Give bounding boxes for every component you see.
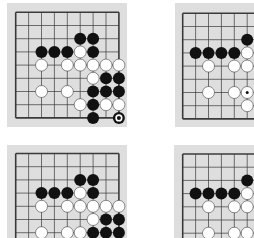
white-stone (203, 201, 215, 213)
black-stone (215, 188, 227, 200)
black-stone (87, 99, 99, 111)
white-stone (100, 200, 112, 212)
white-stone (61, 59, 73, 71)
black-stone (87, 174, 99, 186)
white-stone (228, 60, 240, 72)
black-stone (190, 47, 202, 59)
black-stone (87, 227, 99, 238)
board-grid (175, 3, 254, 127)
white-stone (241, 227, 253, 238)
go-board-bottom-right (174, 145, 254, 238)
white-stone (241, 87, 253, 99)
go-board-top-right (175, 3, 254, 127)
black-stone (87, 187, 99, 199)
white-stone (228, 227, 240, 238)
white-stone (74, 227, 86, 238)
black-stone (113, 72, 125, 84)
white-stone (87, 72, 99, 84)
board-grid (174, 145, 254, 238)
white-stone (100, 59, 112, 71)
white-stone (228, 87, 240, 99)
white-stone (74, 99, 86, 111)
black-stone (113, 112, 125, 124)
white-stone (113, 200, 125, 212)
white-stone (228, 201, 240, 213)
white-stone (100, 99, 112, 111)
white-stone (36, 227, 48, 238)
white-stone (203, 227, 215, 238)
black-stone (241, 34, 253, 46)
white-stone (203, 60, 215, 72)
white-stone (113, 99, 125, 111)
black-stone (87, 112, 99, 124)
white-stone (74, 46, 86, 58)
white-stone (87, 59, 99, 71)
go-board-top-left (7, 3, 127, 127)
white-stone (74, 200, 86, 212)
board-grid (7, 3, 127, 127)
black-stone (100, 214, 112, 226)
black-stone (241, 174, 253, 186)
white-stone (61, 200, 73, 212)
black-stone (61, 187, 73, 199)
black-stone (74, 33, 86, 45)
black-stone (113, 227, 125, 238)
black-stone (74, 174, 86, 186)
white-stone (113, 59, 125, 71)
white-stone (241, 60, 253, 72)
black-stone (87, 86, 99, 98)
white-stone (241, 47, 253, 59)
black-stone (36, 46, 48, 58)
black-stone (100, 86, 112, 98)
black-stone (113, 86, 125, 98)
white-stone (61, 86, 73, 98)
black-stone (61, 46, 73, 58)
black-stone (228, 47, 240, 59)
white-stone (241, 188, 253, 200)
black-stone (48, 187, 60, 199)
white-stone (203, 87, 215, 99)
black-stone (100, 72, 112, 84)
white-stone (87, 214, 99, 226)
dot-marker-icon (246, 91, 249, 94)
white-stone (241, 201, 253, 213)
go-board-bottom-left (7, 145, 127, 238)
white-stone (61, 227, 73, 238)
white-stone (36, 200, 48, 212)
white-stone (36, 59, 48, 71)
black-stone (48, 46, 60, 58)
black-stone (203, 47, 215, 59)
board-grid (7, 145, 127, 238)
black-stone (203, 188, 215, 200)
black-stone (228, 188, 240, 200)
black-stone (87, 46, 99, 58)
white-stone (87, 200, 99, 212)
black-stone (87, 33, 99, 45)
black-stone (113, 214, 125, 226)
white-stone (36, 86, 48, 98)
white-stone (74, 187, 86, 199)
white-stone (241, 100, 253, 112)
black-stone (215, 47, 227, 59)
black-stone (190, 188, 202, 200)
black-stone (36, 187, 48, 199)
black-stone (100, 227, 112, 238)
white-stone (74, 59, 86, 71)
